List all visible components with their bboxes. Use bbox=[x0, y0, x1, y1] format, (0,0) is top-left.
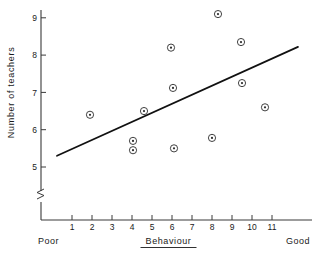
data-point-center-dot bbox=[217, 13, 219, 15]
data-point bbox=[170, 145, 177, 152]
data-point-center-dot bbox=[240, 41, 242, 43]
plot-canvas: 567891234567891011Number of teachersBeha… bbox=[0, 0, 317, 255]
data-point-center-dot bbox=[264, 106, 266, 108]
data-point bbox=[129, 147, 136, 154]
data-point bbox=[140, 107, 147, 114]
x-axis-tick-label: 7 bbox=[190, 222, 195, 232]
x-axis-tick-label: 3 bbox=[110, 222, 115, 232]
y-axis-title: Number of teachers bbox=[6, 47, 16, 139]
regression-line-group bbox=[57, 47, 298, 156]
data-point-center-dot bbox=[211, 137, 213, 139]
data-point-center-dot bbox=[172, 87, 174, 89]
data-point-center-dot bbox=[132, 140, 134, 142]
x-axis-low-label: Poor bbox=[38, 236, 59, 246]
data-point bbox=[238, 79, 245, 86]
x-axis-tick-label: 4 bbox=[130, 222, 135, 232]
data-point-center-dot bbox=[241, 82, 243, 84]
x-axis-tick-label: 8 bbox=[210, 222, 215, 232]
data-point bbox=[169, 84, 176, 91]
x-axis-tick-label: 11 bbox=[268, 222, 277, 232]
scatter-plot-figure: 567891234567891011Number of teachersBeha… bbox=[0, 0, 317, 255]
y-axis-tick-label: 9 bbox=[32, 13, 37, 23]
data-point bbox=[129, 137, 136, 144]
data-point-center-dot bbox=[132, 149, 134, 151]
x-axis-tick-label: 6 bbox=[170, 222, 175, 232]
axes-group bbox=[37, 10, 312, 220]
x-axis-tick-label: 5 bbox=[150, 222, 155, 232]
data-point-center-dot bbox=[143, 110, 145, 112]
x-axis-tick-label: 9 bbox=[230, 222, 235, 232]
x-axis-tick-label: 2 bbox=[90, 222, 95, 232]
y-axis-tick-label: 6 bbox=[32, 125, 37, 135]
y-axis-tick-label: 8 bbox=[32, 50, 37, 60]
data-point-center-dot bbox=[173, 147, 175, 149]
axis-labels-group: 567891234567891011Number of teachersBeha… bbox=[6, 13, 310, 248]
regression-line bbox=[57, 47, 298, 156]
data-point bbox=[214, 10, 221, 17]
data-point bbox=[167, 44, 174, 51]
data-point-center-dot bbox=[170, 47, 172, 49]
data-point bbox=[208, 134, 215, 141]
data-point bbox=[261, 104, 268, 111]
data-points-group bbox=[86, 10, 268, 153]
y-axis-tick-label: 7 bbox=[32, 88, 37, 98]
x-axis-title: Behaviour bbox=[146, 236, 192, 246]
data-point bbox=[237, 38, 244, 45]
data-point-center-dot bbox=[89, 114, 91, 116]
x-axis-high-label: Good bbox=[286, 236, 310, 246]
x-axis-tick-label: 1 bbox=[70, 222, 75, 232]
data-point bbox=[86, 111, 93, 118]
y-axis-tick-label: 5 bbox=[32, 162, 37, 172]
y-axis-break-icon bbox=[37, 189, 44, 199]
x-axis-tick-label: 10 bbox=[247, 222, 257, 232]
